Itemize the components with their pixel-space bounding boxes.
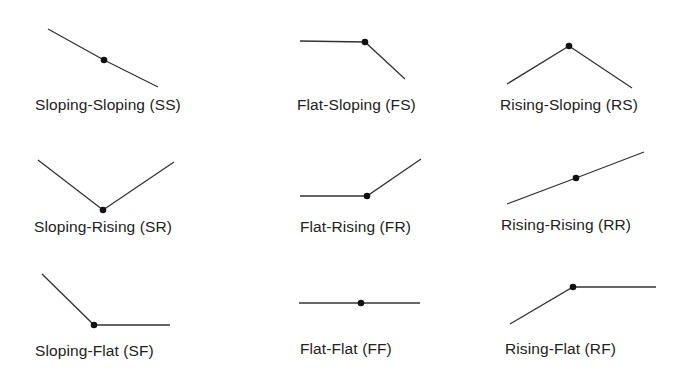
diagram-canvas — [0, 0, 698, 388]
pattern-ff-label: Flat-Flat (FF) — [300, 340, 392, 358]
segment-line — [510, 287, 656, 324]
segment-line — [300, 41, 405, 79]
turning-point-dot — [362, 39, 369, 46]
turning-point-dot — [570, 284, 577, 291]
pattern-fr-label: Flat-Rising (FR) — [300, 218, 411, 236]
pattern-rs-label: Rising-Sloping (RS) — [500, 96, 638, 114]
pattern-fr-glyph — [300, 159, 421, 199]
turning-point-dot — [100, 207, 107, 214]
pattern-fs-label: Flat-Sloping (FS) — [297, 96, 416, 114]
pattern-rr-glyph — [507, 152, 644, 204]
pattern-ss-glyph — [48, 29, 158, 87]
pattern-sf-label: Sloping-Flat (SF) — [35, 342, 154, 360]
turning-point-dot — [101, 57, 108, 64]
segment-line — [507, 46, 632, 88]
pattern-rs-glyph — [507, 43, 632, 88]
pattern-sr-glyph — [38, 160, 174, 213]
pattern-sf-glyph — [42, 274, 170, 328]
turning-point-dot — [91, 322, 98, 329]
turning-point-dot — [566, 43, 573, 50]
segment-line — [300, 159, 421, 196]
segment-line — [38, 160, 174, 210]
pattern-rf-label: Rising-Flat (RF) — [505, 340, 616, 358]
segment-line — [42, 274, 170, 325]
turning-point-dot — [573, 175, 580, 182]
pattern-fs-glyph — [300, 39, 405, 79]
pattern-ff-glyph — [299, 300, 420, 307]
pattern-rr-label: Rising-Rising (RR) — [501, 216, 631, 234]
pattern-ss-label: Sloping-Sloping (SS) — [35, 96, 181, 114]
pattern-diagram: Sloping-Sloping (SS)Flat-Sloping (FS)Ris… — [0, 0, 698, 388]
turning-point-dot — [358, 300, 365, 307]
pattern-sr-label: Sloping-Rising (SR) — [34, 218, 172, 236]
turning-point-dot — [364, 193, 371, 200]
pattern-rf-glyph — [510, 284, 656, 324]
